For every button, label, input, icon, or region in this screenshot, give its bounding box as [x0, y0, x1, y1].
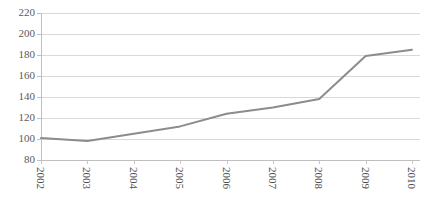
- series-line-layer: [0, 0, 424, 220]
- line-chart: 80100120140160180200220 2002200320042005…: [0, 0, 424, 220]
- series-line: [41, 50, 412, 141]
